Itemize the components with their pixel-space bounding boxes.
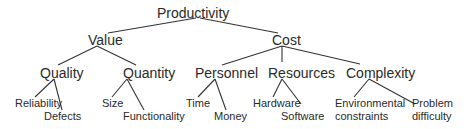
edge-resources-hardware — [273, 79, 282, 97]
node-problem-line2: difficulty — [412, 110, 453, 123]
productivity-tree-diagram: Productivity Value Cost Quality Quantity… — [0, 0, 468, 129]
edge-quantity-functionality — [127, 79, 144, 110]
node-quality: Quality — [40, 66, 84, 80]
edge-complexity-environmental — [354, 79, 369, 97]
edge-quantity-size — [112, 79, 127, 97]
edge-cost-personnel — [222, 46, 282, 65]
node-quantity: Quantity — [123, 66, 175, 80]
node-environmental-constraints: Environmental constraints — [335, 97, 405, 123]
node-money: Money — [214, 111, 247, 122]
node-problem-difficulty: Problem difficulty — [412, 97, 453, 123]
node-reliability: Reliability — [15, 98, 62, 109]
node-defects: Defects — [44, 111, 81, 122]
node-productivity: Productivity — [157, 6, 229, 20]
node-personnel: Personnel — [195, 66, 258, 80]
node-hardware: Hardware — [253, 98, 301, 109]
edge-personnel-time — [198, 79, 215, 97]
edge-quality-reliability — [35, 79, 54, 97]
node-resources: Resources — [268, 66, 335, 80]
node-time: Time — [186, 98, 210, 109]
node-complexity: Complexity — [346, 66, 415, 80]
node-environmental-line2: constraints — [335, 110, 405, 123]
node-value: Value — [88, 33, 123, 47]
edge-personnel-money — [215, 79, 226, 110]
node-environmental-line1: Environmental — [335, 97, 405, 110]
node-size: Size — [102, 98, 123, 109]
node-software: Software — [281, 111, 324, 122]
edge-value-quality — [58, 46, 97, 65]
edge-value-quantity — [97, 46, 136, 65]
node-problem-line1: Problem — [412, 97, 453, 110]
node-functionality: Functionality — [123, 111, 185, 122]
edge-cost-complexity — [282, 46, 360, 64]
node-cost: Cost — [272, 33, 301, 47]
